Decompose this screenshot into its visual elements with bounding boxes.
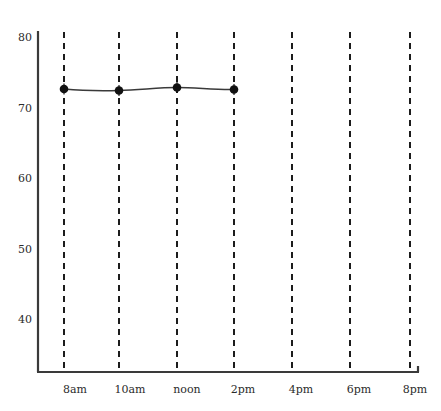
line-chart: 80 70 60 50 40 8am 10am noon 2pm 4pm 6pm… (0, 0, 441, 411)
gridlines-vertical (64, 32, 410, 372)
xtick-label-noon: noon (173, 384, 200, 395)
series-line-temperature (64, 88, 234, 91)
xtick-label-2pm: 2pm (231, 384, 255, 395)
xtick-label-8pm: 8pm (403, 384, 427, 395)
ytick-label-60: 60 (10, 173, 32, 184)
xtick-label-8am: 8am (63, 384, 87, 395)
ytick-label-40: 40 (10, 314, 32, 325)
xtick-label-6pm: 6pm (347, 384, 371, 395)
ytick-label-50: 50 (10, 244, 32, 255)
xtick-label-10am: 10am (115, 384, 146, 395)
ytick-label-70: 70 (10, 103, 32, 114)
xtick-label-4pm: 4pm (289, 384, 313, 395)
ytick-label-80: 80 (10, 32, 32, 43)
chart-canvas (0, 0, 441, 411)
